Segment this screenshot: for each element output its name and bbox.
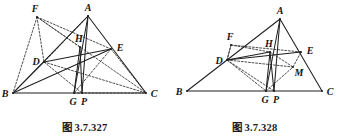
figure-328: ABCDEFHMGP 图 3.7.328: [170, 0, 339, 140]
vertex-dot-h: [269, 51, 271, 53]
vertex-dot-g: [265, 90, 267, 92]
segment-HG: [74, 47, 80, 93]
vertex-dot-b: [12, 92, 14, 94]
vertex-dot-c: [145, 92, 147, 94]
figure-328-canvas: ABCDEFHMGP: [170, 0, 339, 112]
figure-328-svg: [170, 0, 339, 112]
vertex-dot-b: [186, 90, 188, 92]
vertex-dot-a: [87, 15, 89, 17]
vertex-dot-d: [43, 61, 45, 63]
figure-327-svg: [0, 0, 169, 112]
vertex-dot-d: [226, 59, 228, 61]
figure-327-canvas: ABCDEFHGP: [0, 0, 169, 112]
vertex-dot-e: [110, 48, 112, 50]
segment-ME-dotted: [293, 52, 301, 67]
figure-327: ABCDEFHGP 图 3.7.327: [0, 0, 169, 140]
vertex-dot-c: [321, 90, 323, 92]
segment-DC-dotted: [44, 62, 146, 93]
vertex-dot-g: [73, 92, 75, 94]
vertex-dot-e: [300, 51, 302, 53]
segment-FE-dotted: [37, 17, 111, 49]
vertex-dot-a: [279, 18, 281, 20]
vertex-dot-m: [292, 66, 294, 68]
figure-327-solid-lines: [13, 16, 146, 93]
segment-BA: [187, 19, 280, 91]
segment-BE: [13, 49, 111, 93]
segment-DB: [13, 62, 44, 93]
segment-AC: [88, 16, 146, 93]
segment-AC: [280, 19, 322, 91]
vertex-dot-f: [36, 16, 38, 18]
segment-FC-dotted: [37, 17, 146, 93]
figure-328-solid-lines: [187, 19, 322, 91]
segment-DG-dotted: [227, 60, 266, 91]
vertex-dot-p: [273, 90, 275, 92]
vertex-dot-p: [81, 92, 83, 94]
figure-328-caption: 图 3.7.328: [170, 112, 339, 140]
figure-sheet: ABCDEFHGP 图 3.7.327 ABCDEFHMGP 图 3.7.328: [0, 0, 339, 140]
segment-FD-dotted: [37, 17, 44, 62]
vertex-dot-f: [230, 44, 232, 46]
vertex-dot-h: [79, 46, 81, 48]
figure-327-caption: 图 3.7.327: [0, 112, 169, 140]
